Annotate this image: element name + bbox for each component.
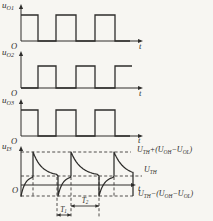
label-token: OL (183, 149, 190, 155)
label-token: 1 (64, 208, 67, 214)
label-token: O3 (7, 100, 14, 106)
uo3-origin-label: O (11, 137, 17, 146)
uO2-y-axis-arrow-icon (19, 51, 23, 56)
level-label-uth: UTH (144, 166, 157, 175)
label-token: TH (144, 193, 151, 199)
level-label-uth-plus: UTH+(UOH−UOL) (137, 146, 192, 155)
uo3-axis-label: uO3 (2, 96, 14, 106)
ui3-axis-label: uI3 (2, 142, 12, 152)
uo2-axis-label: uO2 (2, 48, 14, 58)
uo1-axis-label: uO1 (2, 1, 14, 11)
uO3-y-axis-arrow-icon (19, 99, 23, 104)
label-token: −( (151, 189, 159, 198)
level-label-uth-minus: UTH−(UOH−UOL) (138, 190, 193, 199)
uO2-waveform (21, 66, 132, 88)
label-token: O2 (7, 52, 14, 58)
waveform-canvas (0, 0, 213, 221)
label-token: TH (143, 149, 150, 155)
t2-interval-label: T2 (71, 197, 99, 206)
label-token: O1 (7, 5, 14, 11)
uo1-time-axis-label: t (139, 42, 141, 51)
t1-interval-label: T1 (56, 206, 71, 215)
uO1-waveform (21, 15, 130, 41)
label-token: ) (190, 145, 193, 154)
uI3-y-axis-arrow-icon (19, 146, 23, 151)
uO1-y-axis-arrow-icon (19, 4, 23, 9)
uO3-waveform (21, 110, 130, 136)
ui3-origin-label: O (12, 186, 18, 195)
label-token: +( (150, 145, 158, 154)
uo3-time-axis-label: t (138, 136, 140, 145)
uo2-time-axis-label: t (139, 89, 141, 98)
label-token: ) (191, 189, 194, 198)
label-token: 2 (86, 199, 89, 205)
label-token: TH (150, 169, 157, 175)
label-token: I3 (7, 146, 12, 152)
label-token: OL (184, 193, 191, 199)
uI3-waveform (21, 152, 133, 196)
waveform-figure: uO1 O t uO2 O t uO3 O t uI3 O t UTH+(UOH… (0, 0, 213, 221)
